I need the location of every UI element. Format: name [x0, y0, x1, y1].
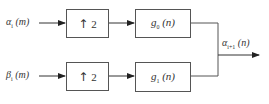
- filter-block-g0: g0 (n): [135, 9, 191, 38]
- input-label-alpha: αi (m): [6, 17, 29, 29]
- output-label: αi+1 (n): [222, 38, 249, 50]
- up-arrow-icon: ↑: [78, 17, 88, 31]
- up-arrow-icon: ↑: [78, 70, 88, 84]
- upsampler-block-top: ↑ 2: [66, 9, 109, 38]
- input-label-beta: βi (m): [6, 70, 29, 82]
- line-g0-to-junction: [190, 23, 218, 76]
- filter-block-g1: g1 (n): [135, 62, 191, 92]
- upsampler-block-bottom: ↑ 2: [66, 62, 109, 91]
